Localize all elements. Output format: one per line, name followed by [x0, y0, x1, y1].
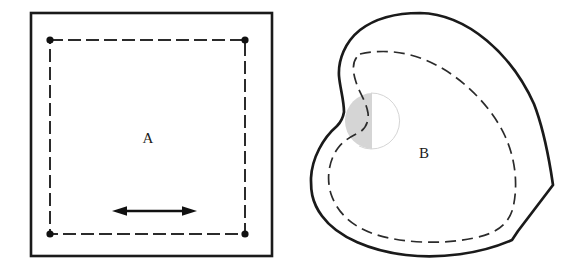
panel-a-corner-dot-top-right — [241, 36, 248, 43]
panel-b-outer-outline — [311, 13, 553, 256]
panel-a-corner-dot-bottom-right — [241, 230, 248, 237]
panel-b-group: B — [311, 13, 553, 256]
panel-b-label: B — [419, 145, 429, 161]
figure-container: A B — [0, 0, 576, 276]
panel-a-label: A — [143, 130, 154, 146]
panel-a-group: A — [31, 13, 272, 256]
technical-figure: A B — [0, 0, 576, 276]
panel-a-corner-dot-top-left — [46, 36, 53, 43]
panel-a-corner-dot-bottom-left — [46, 230, 53, 237]
